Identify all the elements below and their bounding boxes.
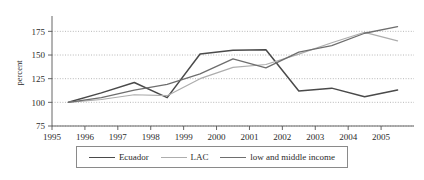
x-tick-label-2000: 2000 xyxy=(208,132,227,142)
x-tick-label-1999: 1999 xyxy=(175,132,194,142)
y-tick-label-75: 75 xyxy=(36,121,46,131)
legend-item-lac: LAC xyxy=(161,153,209,162)
y-tick-label-100: 100 xyxy=(32,98,46,108)
legend-label-ecuador: Ecuador xyxy=(119,153,149,162)
x-tick-label-2001: 2001 xyxy=(240,132,258,142)
y-axis-title: percent xyxy=(14,60,24,86)
x-tick-label-2004: 2004 xyxy=(339,132,358,142)
x-tick-label-1995: 1995 xyxy=(43,132,62,142)
chart-legend: Ecuador LAC low and middle income xyxy=(76,146,348,168)
x-tick-label-2002: 2002 xyxy=(273,132,291,142)
legend-item-low-and-middle-income: low and middle income xyxy=(220,153,335,162)
x-tick-label-1998: 1998 xyxy=(142,132,161,142)
x-tick-label-1996: 1996 xyxy=(76,132,95,142)
x-tick-label-2003: 2003 xyxy=(306,132,325,142)
legend-swatch-lac xyxy=(161,157,187,158)
x-tick-label-1997: 1997 xyxy=(109,132,128,142)
x-tick-label-2005: 2005 xyxy=(372,132,391,142)
y-tick-label-175: 175 xyxy=(32,27,46,37)
legend-label-lac: LAC xyxy=(191,153,209,162)
legend-swatch-low-and-middle-income xyxy=(220,157,246,158)
chart-figure: 7510012515017519951996199719981999200020… xyxy=(0,0,424,180)
legend-item-ecuador: Ecuador xyxy=(89,153,149,162)
y-tick-label-150: 150 xyxy=(32,50,46,60)
legend-label-low-and-middle-income: low and middle income xyxy=(250,153,335,162)
legend-swatch-ecuador xyxy=(89,157,115,158)
y-tick-label-125: 125 xyxy=(32,74,46,84)
